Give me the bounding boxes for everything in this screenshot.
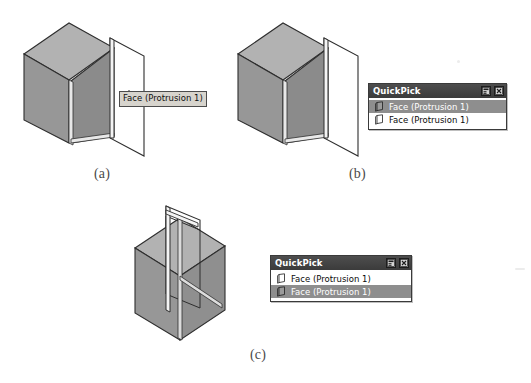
- cube-a-illustration: [14, 8, 244, 168]
- reference-plane-front-edge-a: [110, 38, 114, 138]
- reference-plane-front-edge-b: [324, 38, 328, 138]
- figure-b: [228, 8, 378, 168]
- quickpick-item-c-0[interactable]: Face (Protrusion 1): [271, 272, 411, 285]
- face-tooltip-a: Face (Protrusion 1): [119, 91, 207, 107]
- face-filled-icon: [374, 101, 385, 112]
- quickpick-panel-c[interactable]: QuickPick: [270, 255, 412, 302]
- figure-b-caption: (b): [349, 166, 366, 182]
- cube-b-illustration: [228, 8, 378, 168]
- quickpick-list-b: Face (Protrusion 1) Face (Protrusion 1): [369, 98, 506, 129]
- scan-artifact: [457, 60, 460, 63]
- quickpick-item-label: Face (Protrusion 1): [291, 275, 371, 284]
- quickpick-window-buttons-b: [481, 86, 504, 96]
- face-filled-icon: [276, 286, 287, 297]
- quickpick-item-b-0[interactable]: Face (Protrusion 1): [369, 100, 506, 113]
- quickpick-window-buttons-c: [386, 258, 409, 268]
- figure-a-caption: (a): [94, 166, 110, 182]
- close-icon[interactable]: [494, 86, 504, 96]
- roll-up-icon[interactable]: [481, 86, 491, 96]
- reference-plane-b: [324, 38, 358, 156]
- quickpick-titlebar-c[interactable]: QuickPick: [271, 256, 411, 270]
- quickpick-titlebar-b[interactable]: QuickPick: [369, 84, 506, 98]
- close-icon[interactable]: [399, 258, 409, 268]
- quickpick-panel-b[interactable]: QuickPick: [368, 83, 507, 130]
- quickpick-item-c-1[interactable]: Face (Protrusion 1): [271, 285, 411, 298]
- quickpick-item-b-1[interactable]: Face (Protrusion 1): [369, 113, 506, 126]
- roll-up-icon[interactable]: [386, 258, 396, 268]
- quickpick-item-label: Face (Protrusion 1): [389, 103, 469, 112]
- face-outline-icon: [276, 273, 287, 284]
- scan-artifact: [515, 268, 525, 270]
- quickpick-item-label: Face (Protrusion 1): [389, 116, 469, 125]
- quickpick-title-b: QuickPick: [373, 87, 481, 96]
- face-outline-icon: [374, 114, 385, 125]
- quickpick-title-c: QuickPick: [275, 259, 386, 268]
- quickpick-item-label: Face (Protrusion 1): [291, 288, 371, 297]
- figure-c-caption: (c): [250, 347, 266, 363]
- quickpick-list-c: Face (Protrusion 1) Face (Protrusion 1): [271, 270, 411, 301]
- figure-a: Face (Protrusion 1): [14, 8, 244, 168]
